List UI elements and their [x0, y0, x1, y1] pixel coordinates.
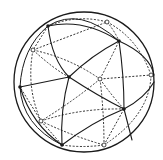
vertex-front	[46, 24, 50, 28]
vertex-front	[117, 39, 121, 43]
vertex-back	[98, 77, 102, 81]
vertex-front	[18, 85, 22, 89]
front-edges	[20, 22, 154, 145]
vertex-front	[60, 143, 64, 147]
vertex-front	[122, 107, 126, 111]
vertex-front	[67, 75, 71, 79]
back-vertices	[31, 20, 153, 147]
vertex-back	[39, 119, 43, 123]
geodesic-sphere-diagram	[0, 0, 163, 160]
vertex-back	[31, 48, 35, 52]
vertex-back	[105, 20, 109, 24]
vertex-back	[102, 143, 106, 147]
front-vertices	[18, 24, 126, 147]
sphere-svg	[0, 0, 163, 160]
vertex-back	[149, 73, 153, 77]
sphere-outline	[14, 12, 154, 152]
